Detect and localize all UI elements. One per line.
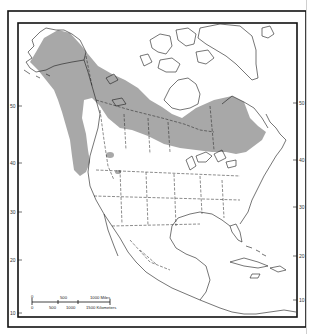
lat-label-left-30: 30	[10, 209, 16, 215]
scale-km-1500: 1500 Kilometers	[86, 305, 116, 310]
lat-label-right-30: 30	[299, 204, 305, 210]
map-labels: 50 40 30 20 10 50 40 30 20 10 0 500 1000…	[0, 0, 318, 334]
lat-label-right-20: 20	[299, 253, 305, 259]
page-edge-line	[306, 0, 307, 334]
scale-miles-500: 500	[60, 295, 68, 300]
scale-km-500: 500	[49, 305, 57, 310]
lat-label-left-20: 20	[10, 257, 16, 263]
lat-label-right-40: 40	[299, 157, 305, 163]
range-map: 50 40 30 20 10 50 40 30 20 10 0 500 1000…	[0, 0, 318, 334]
lat-label-left-40: 40	[10, 160, 16, 166]
scale-miles-1000: 1000 Miles	[90, 295, 110, 300]
lat-label-left-50: 50	[10, 103, 16, 109]
scale-km-0: 0	[31, 305, 34, 310]
lat-label-left-10: 10	[10, 310, 16, 316]
lat-label-right-10: 10	[299, 297, 305, 303]
scale-km-1000: 1000	[66, 305, 76, 310]
scale-miles-0: 0	[31, 294, 34, 299]
lat-label-right-50: 50	[299, 100, 305, 106]
